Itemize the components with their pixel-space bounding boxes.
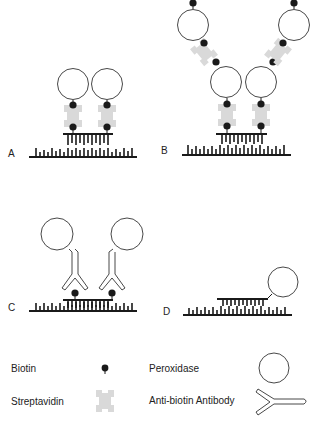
target-dna-strand: [183, 306, 292, 315]
biotin-icon: [189, 0, 196, 7]
amplified-complex-right: [246, 0, 310, 134]
panel-c: C: [8, 218, 143, 313]
antibody-icon: [62, 249, 88, 290]
legend-label-streptavidin: Streptavidin: [11, 396, 64, 407]
probe-dna-strand: [63, 300, 113, 308]
legend-item-peroxidase: Peroxidase: [149, 353, 289, 383]
biotin-icon: [290, 0, 297, 7]
legend: Biotin Streptavidin Peroxidase Anti-biot…: [11, 353, 306, 415]
antibody-complex-left: [41, 218, 88, 300]
peroxidase-circle-icon: [259, 353, 289, 383]
streptavidin-complex-right: [92, 69, 123, 135]
streptavidin-cross-icon: [96, 390, 114, 412]
target-dna-strand: [182, 145, 291, 155]
legend-label-peroxidase: Peroxidase: [149, 363, 199, 374]
biotin-icon: [257, 100, 264, 107]
legend-label-antibody: Anti-biotin Antibody: [149, 395, 235, 406]
antibody-icon: [99, 249, 125, 290]
probe-dna-strand: [216, 134, 267, 144]
amplified-complex-left: [178, 0, 242, 134]
biotin-icon: [71, 289, 78, 296]
peroxidase-icon: [111, 218, 143, 250]
peroxidase-icon: [178, 10, 209, 41]
panel-label-b: B: [161, 145, 168, 156]
panel-label-a: A: [8, 148, 15, 159]
peroxidase-icon: [279, 10, 310, 41]
legend-item-biotin: Biotin: [11, 363, 108, 374]
panel-b: B: [161, 0, 310, 156]
legend-item-streptavidin: Streptavidin: [11, 390, 114, 412]
biotin-icon: [108, 289, 115, 296]
biotin-icon: [279, 39, 286, 46]
probe-dna-strand: [63, 134, 113, 145]
peroxidase-icon: [211, 67, 242, 98]
legend-item-antibody: Anti-biotin Antibody: [149, 389, 306, 415]
peroxidase-icon: [268, 267, 298, 297]
biotin-icon: [69, 101, 76, 108]
biotin-icon: [223, 122, 230, 129]
streptavidin-icon: [264, 38, 292, 66]
probe-dna-strand: [217, 299, 268, 306]
panel-a: A: [8, 69, 137, 160]
panel-label-d: D: [163, 306, 170, 317]
biotin-icon: [212, 58, 219, 65]
streptavidin-complex-left: [58, 69, 89, 135]
target-dna-strand: [29, 148, 137, 157]
direct-peroxidase-label: [267, 267, 298, 299]
panel-d: D: [163, 267, 298, 317]
biotin-icon: [103, 101, 110, 108]
biotin-icon: [103, 123, 110, 130]
target-dna-strand: [29, 302, 137, 311]
peroxidase-icon: [58, 69, 89, 100]
antibody-y-icon: [256, 389, 306, 415]
peroxidase-icon: [92, 69, 123, 100]
biotin-icon: [69, 123, 76, 130]
diagram-canvas: A: [0, 0, 313, 423]
biotin-icon: [257, 122, 264, 129]
panel-label-c: C: [8, 302, 15, 313]
peroxidase-icon: [246, 67, 277, 98]
legend-label-biotin: Biotin: [11, 363, 36, 374]
biotin-icon: [223, 100, 230, 107]
peroxidase-icon: [41, 218, 73, 250]
biotin-dot-icon: [102, 365, 109, 372]
biotin-icon: [200, 39, 207, 46]
antibody-complex-right: [99, 218, 143, 300]
